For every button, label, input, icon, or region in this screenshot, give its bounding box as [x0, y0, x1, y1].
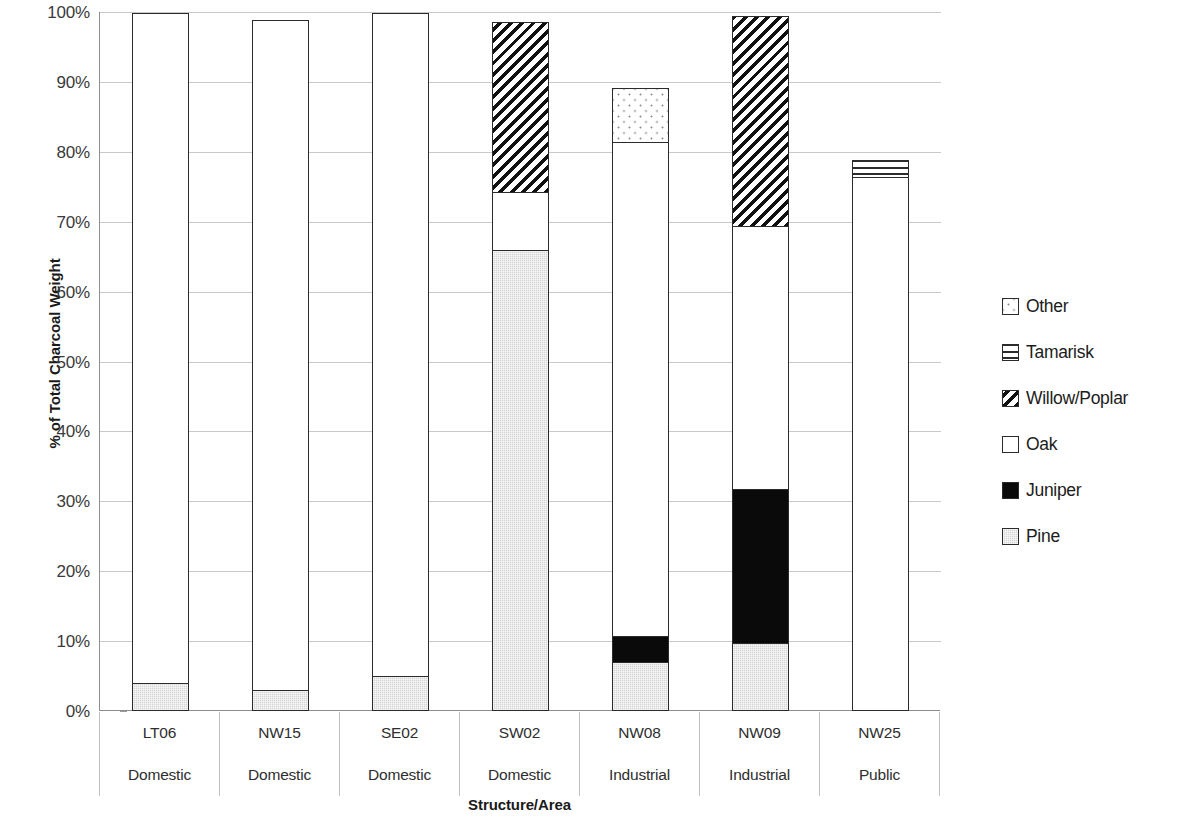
bar-segment[interactable] [252, 690, 309, 711]
bar-segment[interactable] [732, 643, 789, 712]
bar-stack[interactable] [252, 22, 309, 711]
bar-segment[interactable] [732, 489, 789, 644]
category-group-label: Domestic [100, 754, 219, 796]
category-column: NW09Industrial [700, 712, 820, 796]
bar-slot [701, 12, 821, 711]
legend-item-label: Oak [1026, 434, 1057, 455]
legend-item[interactable]: Oak [1002, 421, 1182, 467]
bar-segment[interactable] [852, 176, 909, 711]
category-group-label: Industrial [580, 754, 699, 796]
y-tick-label: 0% [28, 703, 90, 720]
bars-layer [100, 12, 941, 711]
category-id-label: NW08 [580, 712, 699, 754]
legend-item-label: Juniper [1026, 480, 1081, 501]
category-group-label: Public [820, 754, 939, 796]
category-group-label: Domestic [460, 754, 579, 796]
legend-item-label: Other [1026, 296, 1068, 317]
bar-stack[interactable] [372, 15, 429, 711]
category-column: SE02Domestic [340, 712, 460, 796]
legend-item[interactable]: Pine [1002, 513, 1182, 559]
bar-segment[interactable] [252, 20, 309, 691]
light-gray-swatch [1002, 528, 1019, 545]
legend-item-label: Willow/Poplar [1026, 388, 1128, 409]
legend-item-label: Tamarisk [1026, 342, 1094, 363]
y-tick-label: 40% [28, 423, 90, 440]
bar-stack[interactable] [132, 15, 189, 711]
y-tick-label: 90% [28, 73, 90, 90]
category-group-label: Domestic [340, 754, 459, 796]
y-tick-label: 20% [28, 563, 90, 580]
y-tick-label: 100% [28, 4, 90, 21]
category-column: NW25Public [820, 712, 940, 796]
legend: OtherTamariskWillow/PoplarOakJuniperPine [1002, 283, 1182, 559]
bar-slot [581, 12, 701, 711]
bar-segment[interactable] [732, 226, 789, 490]
bar-slot [100, 12, 220, 711]
bar-segment[interactable] [132, 13, 189, 684]
bar-segment[interactable] [612, 636, 669, 664]
dotted-swatch [1002, 298, 1019, 315]
solid-black-swatch [1002, 482, 1019, 499]
y-axis-tick-labels: 100%90%80%70%60%50%40%30%20%10%0% [28, 0, 90, 712]
category-group-label: Industrial [700, 754, 819, 796]
y-tick-label: 60% [28, 283, 90, 300]
bar-segment[interactable] [612, 142, 669, 637]
bar-segment[interactable] [132, 683, 189, 711]
x-axis-title: Structure/Area [99, 796, 940, 813]
bar-slot [460, 12, 580, 711]
plot-area [99, 12, 940, 711]
legend-item[interactable]: Juniper [1002, 467, 1182, 513]
bar-segment[interactable] [612, 88, 669, 144]
category-column: LT06Domestic [100, 712, 220, 796]
bar-stack[interactable] [492, 23, 549, 711]
legend-item[interactable]: Willow/Poplar [1002, 375, 1182, 421]
legend-item[interactable]: Other [1002, 283, 1182, 329]
category-id-label: SW02 [460, 712, 579, 754]
bar-slot [220, 12, 340, 711]
bar-segment[interactable] [612, 662, 669, 711]
diagonal-hatch-swatch [1002, 390, 1019, 407]
bar-segment[interactable] [492, 192, 549, 251]
white-empty-swatch [1002, 436, 1019, 453]
y-tick-label: 70% [28, 213, 90, 230]
bar-segment[interactable] [492, 250, 549, 711]
stacked-bar-chart: % of Total Charcoal Weight 100%90%80%70%… [0, 0, 1182, 820]
bar-slot [821, 12, 941, 711]
bar-segment[interactable] [492, 22, 549, 193]
bar-stack[interactable] [852, 162, 909, 711]
legend-item[interactable]: Tamarisk [1002, 329, 1182, 375]
bar-stack[interactable] [732, 18, 789, 711]
category-id-label: SE02 [340, 712, 459, 754]
y-tick-label: 50% [28, 353, 90, 370]
horizontal-lines-swatch [1002, 344, 1019, 361]
bar-slot [340, 12, 460, 711]
category-column: SW02Domestic [460, 712, 580, 796]
legend-item-label: Pine [1026, 526, 1060, 547]
category-column: NW08Industrial [580, 712, 700, 796]
y-tick-label: 30% [28, 493, 90, 510]
bar-segment[interactable] [852, 160, 909, 177]
category-id-label: LT06 [100, 712, 219, 754]
bar-segment[interactable] [372, 676, 429, 711]
bar-segment[interactable] [372, 13, 429, 677]
category-column: NW15Domestic [220, 712, 340, 796]
category-id-label: NW09 [700, 712, 819, 754]
category-group-label: Domestic [220, 754, 339, 796]
category-id-label: NW15 [220, 712, 339, 754]
y-tick-label: 10% [28, 633, 90, 650]
category-id-label: NW25 [820, 712, 939, 754]
bar-stack[interactable] [612, 89, 669, 711]
category-axis-table: LT06DomesticNW15DomesticSE02DomesticSW02… [99, 712, 940, 796]
y-tick-label: 80% [28, 143, 90, 160]
bar-segment[interactable] [732, 16, 789, 227]
